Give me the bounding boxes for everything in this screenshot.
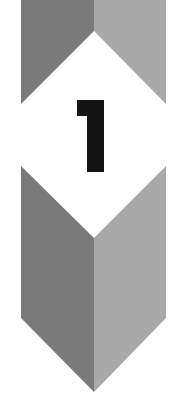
number-badge: 1: [0, 0, 180, 398]
top-right-face: [94, 0, 166, 104]
bottom-right-face: [94, 166, 166, 392]
numeral-one-glyph: [77, 100, 104, 172]
top-left-face: [21, 0, 94, 104]
bottom-left-face: [21, 166, 94, 392]
chevron-ribbon-icon: [0, 0, 180, 398]
